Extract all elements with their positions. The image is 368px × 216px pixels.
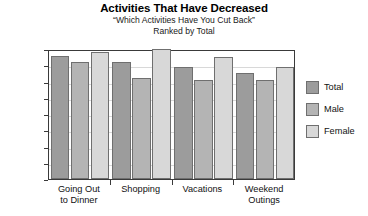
chart-legend: TotalMaleFemale (306, 76, 368, 142)
chart-title: Activities That Have Decreased (0, 2, 368, 15)
bar-total-3 (236, 73, 255, 179)
y-axis-tick-mark (44, 180, 48, 181)
bar-male-0 (71, 62, 90, 179)
legend-item-male[interactable]: Male (306, 98, 368, 120)
x-axis-category-label: WeekendOutings (233, 184, 295, 206)
bar-female-1 (152, 49, 171, 179)
title-block: Activities That Have Decreased “Which Ac… (0, 2, 368, 37)
x-axis-category-line: Vacations (172, 184, 234, 195)
bar-total-1 (112, 62, 131, 179)
bar-male-1 (132, 78, 151, 179)
x-axis-category-line: Weekend (233, 184, 295, 195)
x-axis-category-line: to Dinner (48, 195, 110, 206)
legend-label: Male (324, 104, 344, 114)
legend-label: Total (324, 82, 343, 92)
legend-item-female[interactable]: Female (306, 120, 368, 142)
bars-layer (49, 51, 294, 179)
plot-area (48, 50, 295, 180)
x-axis-category-label: Vacations (172, 184, 234, 195)
legend-swatch-icon (306, 103, 319, 116)
bar-female-2 (214, 57, 233, 179)
chart-subtitle: “Which Activities Have You Cut Back” (0, 15, 368, 26)
bar-total-2 (174, 67, 193, 179)
chart-subtitle-ranked: Ranked by Total (0, 26, 368, 37)
legend-swatch-icon (306, 81, 319, 94)
x-axis-category-label: Shopping (110, 184, 172, 195)
legend-swatch-icon (306, 125, 319, 138)
bar-female-0 (91, 52, 110, 179)
bar-total-0 (51, 56, 70, 180)
x-axis-category-line: Outings (233, 195, 295, 206)
x-axis-category-label: Going Outto Dinner (48, 184, 110, 206)
x-axis-category-line: Going Out (48, 184, 110, 195)
legend-item-total[interactable]: Total (306, 76, 368, 98)
chart-figure: Activities That Have Decreased “Which Ac… (0, 0, 368, 216)
bar-male-3 (256, 80, 275, 179)
legend-label: Female (324, 126, 355, 136)
x-axis-category-line: Shopping (110, 184, 172, 195)
bar-female-3 (276, 67, 295, 179)
bar-male-2 (194, 80, 213, 179)
